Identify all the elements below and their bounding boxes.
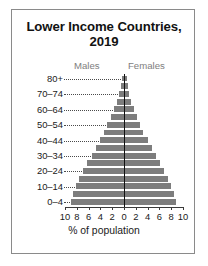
leader-line-50-54 — [64, 125, 106, 127]
y-axis-label-0-4: 0–4 — [15, 196, 63, 207]
bar-females-25-29 — [124, 160, 160, 166]
leader-line-30-34 — [64, 156, 91, 158]
bar-females-35-39 — [124, 145, 152, 151]
y-axis-labels: 0–410–1420–2430–3440–4450–5460–6470–7480… — [12, 75, 63, 206]
bar-males-40-44 — [100, 137, 124, 143]
bar-females-15-19 — [124, 176, 168, 182]
leader-line-60-64 — [64, 110, 113, 112]
bar-males-25-29 — [87, 160, 124, 166]
y-axis-label-70-74: 70–74 — [15, 88, 63, 99]
bar-males-15-19 — [79, 176, 124, 182]
leader-line-0-4 — [64, 202, 70, 204]
chart-frame: Lower Income Countries, 2019 Males Femal… — [11, 9, 195, 254]
bar-females-40-44 — [124, 137, 148, 143]
bar-males-20-24 — [83, 168, 124, 174]
leader-line-40-44 — [64, 141, 99, 143]
y-axis-label-50-54: 50–54 — [15, 119, 63, 130]
x-tick — [112, 207, 113, 210]
legend-label-males: Males — [74, 60, 100, 71]
x-tick — [159, 207, 160, 210]
x-tick — [148, 207, 149, 210]
x-tick — [77, 207, 78, 210]
legend-label-females: Females — [128, 60, 165, 71]
bar-males-45-49 — [104, 130, 124, 136]
y-axis-label-20-24: 20–24 — [15, 165, 63, 176]
bar-females-55-59 — [124, 114, 137, 120]
x-tick — [183, 207, 184, 210]
leader-line-70-74 — [64, 94, 118, 96]
leader-line-10-14 — [64, 187, 75, 189]
x-axis-title: % of population — [12, 225, 196, 236]
bar-males-0-4 — [71, 199, 124, 205]
bar-females-45-49 — [124, 130, 143, 136]
leader-line-20-24 — [64, 171, 82, 173]
population-pyramid-plot: Males Females 0–410–1420–2430–3440–4450–… — [12, 10, 196, 255]
y-axis-label-30-34: 30–34 — [15, 150, 63, 161]
x-tick — [100, 207, 101, 210]
bar-females-60-64 — [124, 106, 134, 112]
bar-females-50-54 — [124, 122, 140, 128]
leader-line-80+ — [64, 79, 121, 81]
bar-females-65-69 — [124, 99, 131, 105]
y-axis-label-80+: 80+ — [15, 73, 63, 84]
bar-females-10-14 — [124, 183, 171, 189]
x-tick — [136, 207, 137, 210]
x-tick — [65, 207, 66, 210]
y-axis-label-40-44: 40–44 — [15, 135, 63, 146]
bar-females-30-34 — [124, 153, 156, 159]
bar-males-50-54 — [107, 122, 124, 128]
x-tick-label-10: 10 — [175, 211, 191, 222]
bar-females-20-24 — [124, 168, 164, 174]
bar-females-5-9 — [124, 191, 174, 197]
x-tick — [171, 207, 172, 210]
x-tick — [124, 207, 125, 210]
bar-females-0-4 — [124, 199, 176, 205]
bar-males-5-9 — [73, 191, 124, 197]
y-axis-label-10-14: 10–14 — [15, 181, 63, 192]
bar-males-35-39 — [96, 145, 124, 151]
zero-axis-line — [124, 74, 125, 207]
bar-males-60-64 — [114, 106, 124, 112]
x-tick — [89, 207, 90, 210]
y-axis-label-60-64: 60–64 — [15, 104, 63, 115]
bar-males-55-59 — [111, 114, 124, 120]
bar-males-30-34 — [92, 153, 124, 159]
bar-males-10-14 — [76, 183, 124, 189]
